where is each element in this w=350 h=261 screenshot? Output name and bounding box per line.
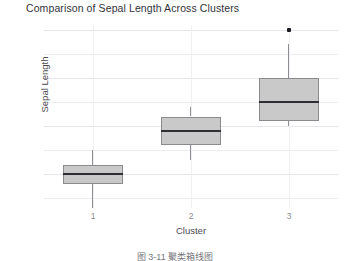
figure-caption: 图 3-11 聚类箱线图 [0,250,350,261]
x-tick-label: 1 [73,211,113,221]
median-line [259,101,320,103]
box-iqr [259,78,320,121]
lower-whisker [190,145,191,159]
box-plot-item[interactable] [259,25,320,208]
box-plot-item[interactable] [63,25,124,208]
box-plot-chart: Comparison of Sepal Length Across Cluste… [0,0,350,261]
box-plot-item[interactable] [161,25,222,208]
x-axis-label: Cluster [44,225,338,236]
x-tick-label: 3 [269,211,309,221]
lower-whisker [92,184,93,208]
y-axis-label: Sepal Length [39,57,50,113]
plot-area: 5678 123 Sepal Length Cluster [44,25,338,208]
upper-whisker [288,44,289,78]
upper-whisker [92,150,93,164]
outlier-point[interactable] [287,28,291,32]
upper-whisker [190,107,191,117]
median-line [63,173,124,175]
x-tick-label: 2 [171,211,211,221]
median-line [161,130,222,132]
chart-title: Comparison of Sepal Length Across Cluste… [26,2,239,14]
lower-whisker [288,121,289,126]
